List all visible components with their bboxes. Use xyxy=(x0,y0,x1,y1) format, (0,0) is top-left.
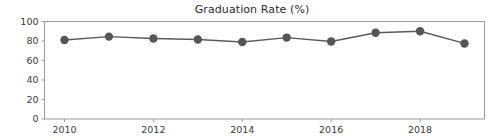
x-tick-label: 2014 xyxy=(230,124,254,135)
y-axis-tick-labels: 020406080100 xyxy=(20,16,38,125)
x-tick-label: 2016 xyxy=(319,124,343,135)
y-tick-label: 0 xyxy=(32,113,38,124)
data-point-marker xyxy=(371,29,379,37)
data-point-marker xyxy=(283,33,291,41)
data-point-marker xyxy=(327,37,335,45)
data-point-marker xyxy=(238,38,246,46)
chart-figure: Graduation Rate (%) 020406080100 2010201… xyxy=(0,0,504,140)
data-series-line xyxy=(65,31,465,43)
y-tick-label: 80 xyxy=(26,35,38,46)
x-axis-tick-labels: 20102012201420162018 xyxy=(52,124,432,135)
data-point-marker xyxy=(416,27,424,35)
y-tick-label: 100 xyxy=(20,16,38,27)
x-tick-label: 2012 xyxy=(141,124,165,135)
data-point-marker xyxy=(460,39,468,47)
data-point-marker xyxy=(149,34,157,42)
line-chart-plot: 020406080100 20102012201420162018 xyxy=(0,0,504,140)
y-tick-label: 60 xyxy=(26,55,38,66)
x-tick-label: 2018 xyxy=(408,124,432,135)
y-tick-label: 20 xyxy=(26,94,38,105)
data-point-marker xyxy=(60,36,68,44)
data-point-marker xyxy=(194,35,202,43)
x-tick-label: 2010 xyxy=(52,124,76,135)
data-point-marker xyxy=(105,32,113,40)
y-tick-label: 40 xyxy=(26,74,38,85)
